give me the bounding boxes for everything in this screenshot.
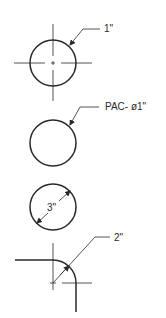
example-fillet-radius: 2": [15, 232, 124, 312]
dimension-label-2: PAC- ø1": [105, 101, 147, 112]
leader-line-1: [70, 29, 100, 45]
example-diameter-callout: PAC- ø1": [30, 101, 147, 166]
radius-arrow-4: [60, 266, 69, 275]
dimension-label-1: 1": [104, 23, 114, 34]
dimension-line-3a: [37, 213, 48, 223]
dimension-line-3b: [59, 191, 70, 201]
dimensioning-drawing: 1" PAC- ø1" 3" 2": [0, 0, 166, 318]
leader-line-2: [70, 107, 99, 125]
leader-line-4: [53, 237, 110, 283]
dimension-label-3: 3": [47, 202, 57, 213]
example-radius-circle: 1": [14, 23, 114, 101]
circle-2: [30, 120, 76, 166]
dimension-label-4: 2": [114, 232, 124, 243]
example-diameter-inside: 3": [30, 184, 76, 230]
